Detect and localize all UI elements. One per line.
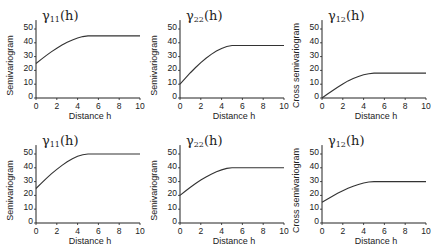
y-axis-label: Semivariogram bbox=[149, 35, 159, 96]
x-tick-label: 6 bbox=[96, 101, 101, 111]
y-tick-label: 0 bbox=[314, 216, 319, 226]
y-tick-label: 40 bbox=[168, 161, 178, 171]
y-axis-label: Cross semivariogram bbox=[291, 148, 301, 233]
y-tick-label: 30 bbox=[310, 50, 320, 60]
variogram-curve bbox=[322, 182, 426, 203]
x-tick-label: 0 bbox=[34, 226, 39, 236]
y-tick-label: 20 bbox=[24, 63, 34, 73]
chart-gamma11-top: 010203040500246810Distance hSemivariogra… bbox=[0, 0, 147, 125]
y-axis-label: Semivariogram bbox=[5, 160, 15, 221]
chart-svg: 010203040500246810Distance hSemivariogra… bbox=[0, 0, 147, 125]
y-tick-label: 50 bbox=[168, 147, 178, 157]
x-axis-label: Distance h bbox=[69, 236, 112, 246]
x-tick-label: 6 bbox=[96, 226, 101, 236]
x-tick-label: 8 bbox=[403, 101, 408, 111]
chart-svg: 010203040500246810Distance hSemivariogra… bbox=[0, 125, 147, 250]
chart-svg: 010203040500246810Distance hCross semiva… bbox=[286, 125, 433, 250]
y-tick-label: 10 bbox=[310, 77, 320, 87]
x-axis-label: Distance h bbox=[69, 111, 112, 121]
chart-title: γ22(h) bbox=[186, 133, 223, 149]
chart-title: γ11(h) bbox=[42, 133, 79, 149]
x-tick-label: 6 bbox=[240, 226, 245, 236]
y-axis-label: Semivariogram bbox=[149, 160, 159, 221]
chart-title: γ11(h) bbox=[42, 8, 79, 24]
chart-gamma12-bottom: 010203040500246810Distance hCross semiva… bbox=[286, 125, 433, 250]
x-tick-label: 2 bbox=[198, 101, 203, 111]
chart-title: γ12(h) bbox=[328, 133, 365, 149]
x-tick-label: 8 bbox=[261, 226, 266, 236]
variogram-curve bbox=[36, 154, 140, 189]
x-tick-label: 0 bbox=[320, 226, 325, 236]
chart-gamma11-bottom: 010203040500246810Distance hSemivariogra… bbox=[0, 125, 147, 250]
x-tick-label: 4 bbox=[75, 226, 80, 236]
x-axis-label: Distance h bbox=[355, 111, 398, 121]
y-tick-label: 50 bbox=[310, 22, 320, 32]
y-tick-label: 0 bbox=[314, 91, 319, 101]
y-tick-label: 10 bbox=[168, 77, 178, 87]
x-tick-label: 8 bbox=[403, 226, 408, 236]
y-tick-label: 20 bbox=[310, 63, 320, 73]
chart-svg: 010203040500246810Distance hCross semiva… bbox=[286, 0, 433, 125]
x-tick-label: 4 bbox=[219, 101, 224, 111]
variogram-curve bbox=[36, 36, 140, 64]
chart-title: γ12(h) bbox=[328, 8, 365, 24]
chart-svg: 010203040500246810Distance hSemivariogra… bbox=[144, 0, 291, 125]
x-tick-label: 0 bbox=[178, 101, 183, 111]
y-tick-label: 50 bbox=[310, 147, 320, 157]
x-tick-label: 6 bbox=[240, 101, 245, 111]
x-tick-label: 0 bbox=[34, 101, 39, 111]
y-tick-label: 0 bbox=[172, 216, 177, 226]
y-tick-label: 30 bbox=[168, 50, 178, 60]
x-tick-label: 6 bbox=[382, 226, 387, 236]
x-tick-label: 6 bbox=[382, 101, 387, 111]
x-tick-label: 2 bbox=[340, 101, 345, 111]
y-tick-label: 30 bbox=[310, 175, 320, 185]
x-axis-label: Distance h bbox=[213, 111, 256, 121]
x-axis-label: Distance h bbox=[355, 236, 398, 246]
y-axis-label: Semivariogram bbox=[5, 35, 15, 96]
x-tick-label: 8 bbox=[261, 101, 266, 111]
y-tick-label: 40 bbox=[168, 36, 178, 46]
y-tick-label: 50 bbox=[24, 147, 34, 157]
y-tick-label: 0 bbox=[28, 91, 33, 101]
y-tick-label: 20 bbox=[168, 63, 178, 73]
y-tick-label: 10 bbox=[310, 202, 320, 212]
y-tick-label: 30 bbox=[24, 50, 34, 60]
y-tick-label: 50 bbox=[168, 22, 178, 32]
x-tick-label: 4 bbox=[361, 101, 366, 111]
y-tick-label: 30 bbox=[24, 175, 34, 185]
y-tick-label: 10 bbox=[168, 202, 178, 212]
chart-gamma22-top: 010203040500246810Distance hSemivariogra… bbox=[144, 0, 291, 125]
x-tick-label: 2 bbox=[54, 101, 59, 111]
x-tick-label: 2 bbox=[54, 226, 59, 236]
y-tick-label: 20 bbox=[310, 188, 320, 198]
y-tick-label: 0 bbox=[28, 216, 33, 226]
x-tick-label: 0 bbox=[320, 101, 325, 111]
x-tick-label: 8 bbox=[117, 101, 122, 111]
x-axis-label: Distance h bbox=[213, 236, 256, 246]
y-tick-label: 40 bbox=[310, 161, 320, 171]
y-tick-label: 10 bbox=[24, 77, 34, 87]
variogram-curve bbox=[180, 168, 284, 196]
chart-title: γ22(h) bbox=[186, 8, 223, 24]
x-tick-label: 8 bbox=[117, 226, 122, 236]
y-tick-label: 0 bbox=[172, 91, 177, 101]
x-tick-label: 10 bbox=[421, 101, 431, 111]
y-tick-label: 20 bbox=[168, 188, 178, 198]
x-tick-label: 10 bbox=[421, 226, 431, 236]
x-tick-label: 4 bbox=[219, 226, 224, 236]
x-tick-label: 2 bbox=[340, 226, 345, 236]
x-tick-label: 2 bbox=[198, 226, 203, 236]
y-tick-label: 20 bbox=[24, 188, 34, 198]
y-tick-label: 10 bbox=[24, 202, 34, 212]
x-tick-label: 4 bbox=[75, 101, 80, 111]
chart-gamma12-top: 010203040500246810Distance hCross semiva… bbox=[286, 0, 433, 125]
chart-svg: 010203040500246810Distance hSemivariogra… bbox=[144, 125, 291, 250]
y-tick-label: 40 bbox=[24, 36, 34, 46]
variogram-curve bbox=[322, 73, 426, 98]
y-tick-label: 30 bbox=[168, 175, 178, 185]
y-axis-label: Cross semivariogram bbox=[291, 23, 301, 108]
y-tick-label: 40 bbox=[24, 161, 34, 171]
chart-gamma22-bottom: 010203040500246810Distance hSemivariogra… bbox=[144, 125, 291, 250]
y-tick-label: 40 bbox=[310, 36, 320, 46]
